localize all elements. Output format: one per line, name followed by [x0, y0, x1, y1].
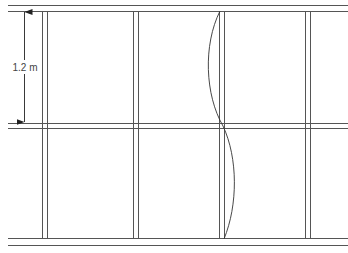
mid-noggin	[8, 124, 348, 129]
top-plate	[8, 6, 348, 12]
buckling-curve	[208, 11, 234, 239]
stud-4	[306, 12, 311, 239]
dimension-label: 1.2 m	[12, 62, 37, 73]
bottom-plate	[8, 239, 348, 246]
stud-2	[134, 12, 139, 239]
stud-1	[43, 12, 48, 239]
stud-wall-diagram: 1.2 m	[0, 0, 348, 253]
